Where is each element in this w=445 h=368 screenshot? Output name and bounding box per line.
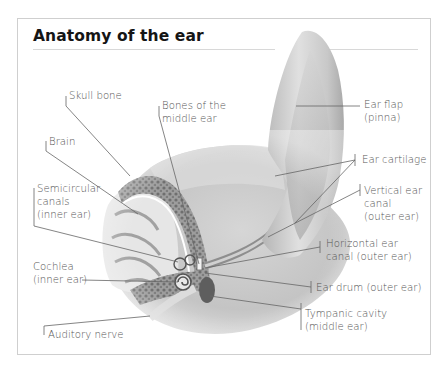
label-horizontal-ear-canal: Horizontal ear canal (outer ear) xyxy=(326,237,412,263)
label-brain: Brain xyxy=(49,135,75,148)
label-ear-drum: Ear drum (outer ear) xyxy=(316,281,421,294)
label-cochlea: Cochlea (inner ear) xyxy=(33,260,87,286)
label-ear-cartilage: Ear cartilage xyxy=(362,153,426,166)
label-ear-flap: Ear flap (pinna) xyxy=(364,98,403,124)
label-auditory-nerve: Auditory nerve xyxy=(48,328,124,341)
label-skull-bone: Skull bone xyxy=(69,89,122,102)
label-tympanic-cavity: Tympanic cavity (middle ear) xyxy=(305,307,387,333)
label-vertical-ear-canal: Vertical ear canal (outer ear) xyxy=(364,184,422,223)
label-bones-of-middle-ear: Bones of the middle ear xyxy=(162,99,226,125)
label-semicircular-canals: Semicircular canals (inner ear) xyxy=(37,182,100,221)
